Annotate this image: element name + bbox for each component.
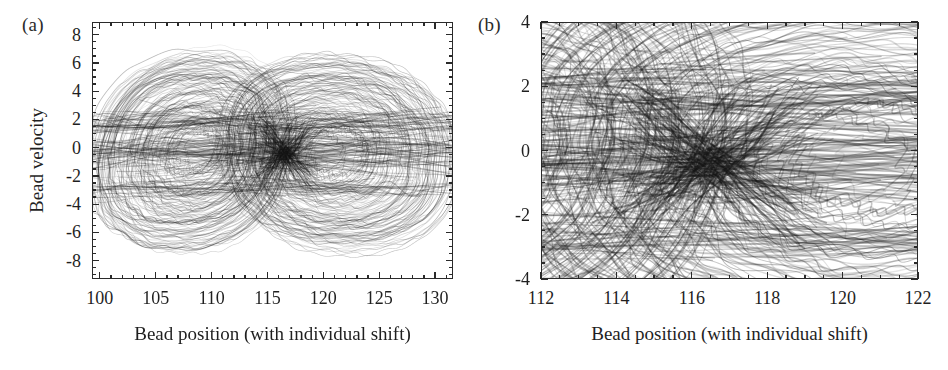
axis-tick bbox=[541, 246, 545, 247]
axis-tick bbox=[92, 62, 99, 63]
x-tick-label: 120 bbox=[310, 288, 337, 309]
axis-tick bbox=[672, 275, 673, 279]
axis-tick bbox=[914, 102, 918, 103]
x-tick-label: 122 bbox=[905, 288, 932, 309]
axis-tick bbox=[785, 22, 786, 26]
axis-tick bbox=[635, 22, 636, 26]
axis-tick bbox=[710, 275, 711, 279]
axis-tick bbox=[861, 22, 862, 26]
axis-tick bbox=[449, 98, 453, 99]
axis-tick bbox=[541, 278, 548, 279]
axis-tick bbox=[710, 22, 711, 26]
axis-tick bbox=[541, 70, 545, 71]
axis-tick bbox=[880, 22, 881, 26]
axis-tick bbox=[635, 275, 636, 279]
axis-tick bbox=[914, 70, 918, 71]
axis-tick bbox=[914, 198, 918, 199]
axis-tick bbox=[861, 275, 862, 279]
axis-tick bbox=[92, 189, 96, 190]
axis-tick bbox=[578, 22, 579, 26]
axis-tick bbox=[92, 260, 99, 261]
axis-tick bbox=[449, 105, 453, 106]
axis-tick bbox=[449, 182, 453, 183]
axis-tick bbox=[899, 275, 900, 279]
axis-tick bbox=[449, 55, 453, 56]
axis-tick bbox=[672, 22, 673, 26]
axis-tick bbox=[748, 22, 749, 26]
axis-tick bbox=[842, 272, 843, 279]
axis-tick bbox=[616, 272, 617, 279]
figure-root: (a) 100105110115120125130-8-6-4-202468 B… bbox=[0, 0, 948, 370]
axis-tick bbox=[541, 86, 548, 87]
axis-tick bbox=[842, 22, 843, 29]
axis-tick bbox=[446, 232, 453, 233]
x-tick-label: 110 bbox=[198, 288, 224, 309]
axis-tick bbox=[92, 133, 96, 134]
axis-tick bbox=[449, 161, 453, 162]
axis-tick bbox=[914, 134, 918, 135]
axis-tick bbox=[914, 182, 918, 183]
y-tick-label: -4 bbox=[0, 269, 530, 290]
x-tick-label: 120 bbox=[829, 288, 856, 309]
axis-tick bbox=[92, 161, 96, 162]
axis-tick bbox=[541, 134, 545, 135]
axis-tick bbox=[446, 260, 453, 261]
axis-tick bbox=[449, 189, 453, 190]
axis-tick bbox=[804, 275, 805, 279]
axis-tick bbox=[914, 118, 918, 119]
axis-tick bbox=[540, 22, 541, 29]
axis-tick bbox=[541, 182, 545, 183]
axis-tick bbox=[449, 126, 453, 127]
x-tick-label: 118 bbox=[754, 288, 780, 309]
axis-tick bbox=[767, 22, 768, 29]
axis-tick bbox=[446, 62, 453, 63]
axis-tick bbox=[559, 275, 560, 279]
y-tick-label: -2 bbox=[0, 204, 530, 225]
axis-tick bbox=[914, 53, 918, 54]
axis-tick bbox=[92, 126, 96, 127]
axis-tick bbox=[691, 272, 692, 279]
axis-tick bbox=[559, 22, 560, 26]
axis-tick bbox=[92, 105, 96, 106]
axis-tick bbox=[899, 22, 900, 26]
axis-tick bbox=[616, 22, 617, 29]
axis-tick bbox=[92, 112, 96, 113]
axis-tick bbox=[92, 55, 96, 56]
axis-tick bbox=[767, 272, 768, 279]
y-tick-label: 6 bbox=[0, 52, 81, 73]
axis-tick bbox=[449, 41, 453, 42]
axis-tick bbox=[691, 22, 692, 29]
axis-tick bbox=[446, 34, 453, 35]
axis-tick bbox=[92, 98, 96, 99]
axis-tick bbox=[911, 278, 918, 279]
axis-tick bbox=[449, 196, 453, 197]
axis-tick bbox=[541, 37, 545, 38]
axis-tick bbox=[748, 275, 749, 279]
axis-tick bbox=[911, 86, 918, 87]
axis-tick bbox=[541, 118, 545, 119]
axis-tick bbox=[541, 262, 545, 263]
axis-tick bbox=[449, 168, 453, 169]
axis-tick bbox=[449, 48, 453, 49]
axis-tick bbox=[449, 239, 453, 240]
axis-tick bbox=[914, 246, 918, 247]
axis-tick bbox=[92, 175, 99, 176]
y-tick-label: 2 bbox=[0, 76, 530, 97]
axis-tick bbox=[823, 275, 824, 279]
axis-tick bbox=[785, 275, 786, 279]
panel-b-trajectories bbox=[542, 23, 918, 279]
axis-tick bbox=[92, 119, 99, 120]
axis-tick bbox=[653, 275, 654, 279]
x-tick-label: 125 bbox=[366, 288, 393, 309]
axis-tick bbox=[92, 34, 99, 35]
x-tick-label: 105 bbox=[142, 288, 169, 309]
axis-tick bbox=[911, 21, 918, 22]
axis-tick bbox=[449, 112, 453, 113]
axis-tick bbox=[449, 133, 453, 134]
axis-tick bbox=[92, 182, 96, 183]
axis-tick bbox=[92, 41, 96, 42]
axis-tick bbox=[914, 37, 918, 38]
axis-tick bbox=[541, 53, 545, 54]
axis-tick bbox=[804, 22, 805, 26]
x-tick-label: 100 bbox=[86, 288, 113, 309]
